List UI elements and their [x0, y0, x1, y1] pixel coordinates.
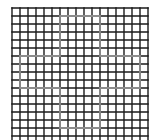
grid-diagram — [0, 0, 151, 140]
